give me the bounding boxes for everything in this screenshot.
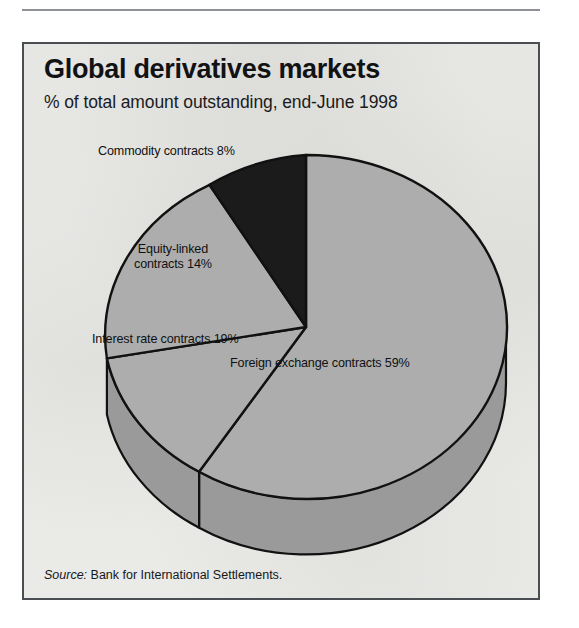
figure-panel: Global derivatives markets % of total am… bbox=[22, 42, 540, 600]
pie-chart: Commodity contracts 8% Equity-linked con… bbox=[24, 44, 538, 598]
slice-label-interest-rate: Interest rate contracts 19% bbox=[92, 332, 238, 347]
pie-chart-svg bbox=[24, 44, 538, 598]
source-label: Source: bbox=[44, 568, 87, 582]
source-note: Source: Bank for International Settlemen… bbox=[44, 568, 282, 582]
slice-label-equity-linked: Equity-linked contracts 14% bbox=[134, 242, 212, 272]
slice-label-equity-line2: contracts 14% bbox=[134, 257, 212, 272]
top-divider-rule bbox=[22, 9, 540, 11]
slice-label-foreign-exchange: Foreign exchange contracts 59% bbox=[230, 356, 410, 371]
slice-label-equity-line1: Equity-linked bbox=[134, 242, 212, 257]
source-text: Bank for International Settlements. bbox=[87, 568, 282, 582]
slice-label-commodity: Commodity contracts 8% bbox=[98, 144, 235, 159]
